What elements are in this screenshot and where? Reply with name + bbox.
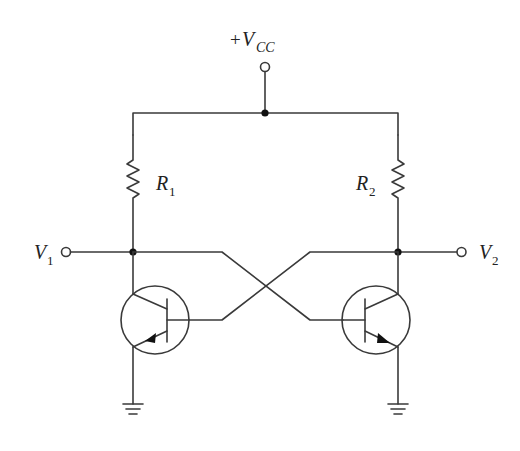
- emitter-arrow-left-icon: [145, 333, 156, 343]
- r1-subscript: 1: [169, 184, 176, 199]
- transistor-right: [342, 252, 410, 414]
- vcc-terminal: [261, 63, 270, 72]
- resistor-r1-symbol: [127, 135, 139, 252]
- resistor-r2: R 2: [355, 135, 404, 252]
- v1-terminal: [62, 248, 71, 257]
- cross-coupling-wire-right-to-left: [189, 252, 398, 320]
- transistor-left-collector: [133, 294, 167, 309]
- resistor-r2-symbol: [392, 135, 404, 252]
- output-v2: V 2: [398, 241, 499, 268]
- vcc-symbol: V: [242, 28, 257, 50]
- output-v1: V 1: [34, 241, 133, 268]
- vcc-junction-dot: [261, 109, 268, 116]
- transistor-right-collector: [365, 294, 398, 309]
- transistor-left: [121, 252, 189, 414]
- ground-left-icon: [123, 404, 143, 414]
- vcc-label: + V CC: [230, 28, 275, 55]
- emitter-arrow-right-icon: [377, 333, 390, 343]
- vcc-prefix: +: [230, 29, 241, 50]
- resistor-r1: R 1: [127, 135, 176, 252]
- v2-subscript: 2: [492, 253, 499, 268]
- r2-subscript: 2: [369, 184, 376, 199]
- circuit-schematic: + V CC R 1 R 2 V 1 V 2: [0, 0, 520, 451]
- r1-symbol: R: [155, 172, 168, 194]
- ground-right-icon: [388, 404, 408, 414]
- vcc-subscript: CC: [256, 40, 275, 55]
- cross-coupling-wire-left-to-right: [133, 252, 343, 320]
- v1-subscript: 1: [47, 253, 54, 268]
- r2-symbol: R: [355, 172, 368, 194]
- v2-terminal: [457, 248, 466, 257]
